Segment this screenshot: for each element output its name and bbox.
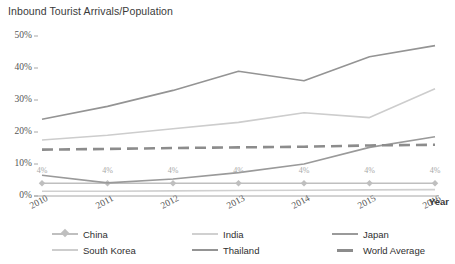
legend-label: India xyxy=(223,229,244,240)
series-marker-china xyxy=(301,180,308,187)
legend-item-china[interactable]: China xyxy=(52,229,192,240)
data-label-china-2010: 4% xyxy=(37,166,48,175)
series-line-japan xyxy=(42,137,435,183)
legend-label: Japan xyxy=(363,229,389,240)
data-label-china-2011: 4% xyxy=(102,166,113,175)
series-marker-china xyxy=(39,180,46,187)
legend-label: Thailand xyxy=(223,245,259,256)
data-label-china-2013: 4% xyxy=(233,166,244,175)
legend-swatch-icon xyxy=(192,245,218,255)
chart-legend: ChinaIndiaJapanSouth KoreaThailandWorld … xyxy=(52,226,452,258)
plot-area xyxy=(0,0,455,264)
legend-swatch-icon xyxy=(52,245,78,255)
legend-item-south-korea[interactable]: South Korea xyxy=(52,245,192,256)
tourist-arrivals-chart: Inbound Tourist Arrivals/Population 50%4… xyxy=(0,0,455,264)
data-label-china-2016: 4% xyxy=(430,166,441,175)
series-line-south-korea xyxy=(42,89,435,140)
series-line-india xyxy=(42,190,435,192)
series-marker-china xyxy=(235,180,242,187)
data-label-china-2012: 4% xyxy=(168,166,179,175)
legend-item-india[interactable]: India xyxy=(192,229,332,240)
legend-item-world-average[interactable]: World Average xyxy=(332,245,455,256)
legend-swatch-icon xyxy=(52,229,78,239)
series-marker-china xyxy=(170,180,177,187)
legend-swatch-icon xyxy=(332,229,358,239)
legend-label: World Average xyxy=(363,245,425,256)
legend-swatch-icon xyxy=(332,245,358,255)
series-line-thailand xyxy=(42,46,435,120)
data-label-china-2015: 4% xyxy=(364,166,375,175)
legend-item-thailand[interactable]: Thailand xyxy=(192,245,332,256)
data-label-china-2014: 4% xyxy=(299,166,310,175)
legend-label: South Korea xyxy=(83,245,136,256)
legend-item-japan[interactable]: Japan xyxy=(332,229,455,240)
series-marker-china xyxy=(432,180,439,187)
legend-label: China xyxy=(83,229,108,240)
legend-swatch-icon xyxy=(192,229,218,239)
series-marker-china xyxy=(366,180,373,187)
